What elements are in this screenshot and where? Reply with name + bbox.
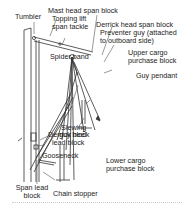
label-upper-cargo-2: purchase block bbox=[128, 57, 176, 65]
label-guy-pendant: Guy pendant bbox=[136, 72, 177, 80]
mast bbox=[24, 28, 31, 182]
label-lower-cargo-2: purchase block bbox=[106, 165, 154, 173]
label-tumbler: Tumbler bbox=[15, 13, 41, 21]
label-span-lead-2: block bbox=[13, 192, 51, 200]
caption-placeholder bbox=[12, 202, 182, 205]
label-spider-band: Spider band bbox=[50, 53, 89, 61]
label-derrick-heel-2: lead block bbox=[52, 139, 84, 147]
label-preventer-guy-2: to outboard side) bbox=[100, 37, 154, 45]
label-topping-lift-2: span tackle bbox=[52, 23, 88, 31]
label-gooseneck: Gooseneck bbox=[42, 152, 78, 160]
label-chain-stopper: Chain stopper bbox=[53, 190, 98, 198]
